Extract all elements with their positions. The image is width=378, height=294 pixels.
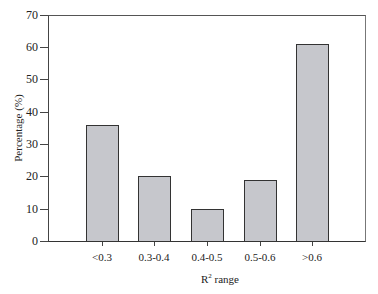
- y-tick-label: 20: [16, 170, 38, 182]
- y-tick-label: 60: [16, 41, 38, 53]
- x-tick: [154, 242, 155, 246]
- y-tick-label: 50: [16, 73, 38, 85]
- y-tick: [40, 144, 48, 145]
- bar: [86, 125, 119, 242]
- x-tick-label: 0.3-0.4: [124, 251, 184, 263]
- x-tick: [312, 242, 313, 246]
- x-tick: [207, 242, 208, 246]
- x-axis-title-rest: range: [212, 273, 239, 285]
- y-tick-label: 0: [16, 235, 38, 247]
- bar: [244, 180, 277, 242]
- x-tick: [260, 242, 261, 246]
- y-tick: [40, 176, 48, 177]
- x-tick-label: 0.4-0.5: [177, 251, 237, 263]
- y-tick: [40, 112, 48, 113]
- y-tick-label: 30: [16, 138, 38, 150]
- y-tick-label: 40: [16, 106, 38, 118]
- bar: [191, 209, 224, 242]
- y-axis-title: Percentage (%): [12, 78, 24, 178]
- x-tick-label: >0.6: [282, 251, 342, 263]
- y-tick: [40, 79, 48, 80]
- y-tick-label: 10: [16, 203, 38, 215]
- x-tick-label: <0.3: [72, 251, 132, 263]
- y-tick: [40, 241, 48, 242]
- x-tick: [102, 242, 103, 246]
- x-axis-title: R2 range: [180, 272, 260, 285]
- y-tick: [40, 47, 48, 48]
- x-tick-label: 0.5-0.6: [230, 251, 290, 263]
- y-tick-label: 70: [16, 9, 38, 21]
- bar: [138, 176, 171, 242]
- bar: [296, 44, 329, 242]
- y-tick: [40, 15, 48, 16]
- y-tick: [40, 209, 48, 210]
